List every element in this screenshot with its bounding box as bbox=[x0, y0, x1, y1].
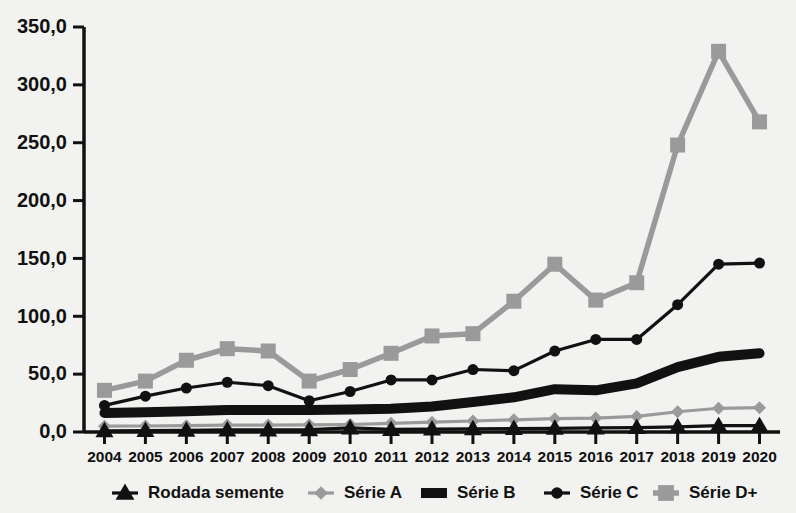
circle-marker-icon bbox=[467, 364, 478, 375]
square-marker-icon bbox=[506, 294, 521, 309]
legend-label: Série D+ bbox=[689, 483, 758, 502]
x-tick-label: 2009 bbox=[292, 448, 327, 465]
x-tick-label: 2007 bbox=[210, 448, 244, 465]
x-tick-label: 2013 bbox=[456, 448, 491, 465]
square-marker-icon bbox=[752, 114, 767, 129]
x-tick-label: 2011 bbox=[374, 448, 408, 465]
square-marker-icon bbox=[658, 485, 674, 501]
circle-marker-icon bbox=[508, 365, 519, 376]
legend-label: Rodada semente bbox=[148, 483, 284, 502]
legend-item-1[interactable]: Rodada semente bbox=[112, 483, 284, 502]
diamond-marker-icon bbox=[712, 402, 725, 415]
circle-marker-icon bbox=[672, 299, 683, 310]
circle-marker-icon bbox=[590, 334, 601, 345]
series-5 bbox=[97, 44, 767, 398]
y-tick-label: 350,0 bbox=[17, 15, 67, 37]
square-marker-icon bbox=[711, 44, 726, 59]
x-tick-label: 2006 bbox=[169, 448, 204, 465]
circle-marker-icon bbox=[140, 391, 151, 402]
x-tick-label: 2008 bbox=[251, 448, 286, 465]
x-axis-ticks: 2004200520062007200820092010201120122013… bbox=[87, 432, 777, 465]
square-marker-icon bbox=[261, 344, 276, 359]
square-marker-icon bbox=[465, 326, 480, 341]
chart-legend: Rodada sementeSérie ASérie BSérie CSérie… bbox=[112, 483, 758, 502]
data-series-layer bbox=[95, 44, 768, 438]
y-axis-ticks: 0,050,0100,0150,0200,0250,0300,0350,0 bbox=[17, 15, 84, 442]
x-tick-label: 2005 bbox=[128, 448, 163, 465]
circle-marker-icon bbox=[181, 383, 192, 394]
chart-canvas: 0,050,0100,0150,0200,0250,0300,0350,0 20… bbox=[0, 0, 796, 513]
square-marker-icon bbox=[179, 353, 194, 368]
circle-marker-icon bbox=[304, 395, 315, 406]
y-tick-label: 0,0 bbox=[39, 420, 67, 442]
legend-item-2[interactable]: Série A bbox=[308, 483, 402, 502]
x-tick-label: 2015 bbox=[538, 448, 573, 465]
circle-marker-icon bbox=[754, 258, 765, 269]
circle-marker-icon bbox=[551, 487, 563, 499]
circle-marker-icon bbox=[263, 380, 274, 391]
legend-label: Série C bbox=[580, 483, 639, 502]
legend-item-3[interactable]: Série B bbox=[421, 483, 516, 502]
square-marker-icon bbox=[384, 346, 399, 361]
x-tick-label: 2018 bbox=[660, 448, 695, 465]
legend-item-4[interactable]: Série C bbox=[544, 483, 639, 502]
y-tick-label: 300,0 bbox=[17, 73, 67, 95]
line-chart: 0,050,0100,0150,0200,0250,0300,0350,0 20… bbox=[0, 0, 796, 513]
y-tick-label: 200,0 bbox=[17, 189, 67, 211]
circle-marker-icon bbox=[631, 334, 642, 345]
square-marker-icon bbox=[138, 374, 153, 389]
legend-label: Série B bbox=[457, 483, 516, 502]
circle-marker-icon bbox=[427, 374, 438, 385]
square-marker-icon bbox=[547, 257, 562, 272]
diamond-marker-icon bbox=[671, 405, 684, 418]
circle-marker-icon bbox=[386, 374, 397, 385]
x-tick-label: 2004 bbox=[87, 448, 122, 465]
x-tick-label: 2019 bbox=[701, 448, 736, 465]
square-marker-icon bbox=[425, 328, 440, 343]
diamond-marker-icon bbox=[314, 486, 328, 500]
square-marker-icon bbox=[588, 293, 603, 308]
square-marker-icon bbox=[97, 383, 112, 398]
circle-marker-icon bbox=[222, 377, 233, 388]
circle-marker-icon bbox=[713, 259, 724, 270]
circle-marker-icon bbox=[549, 346, 560, 357]
y-tick-label: 50,0 bbox=[28, 362, 67, 384]
square-marker-icon bbox=[220, 341, 235, 356]
legend-item-5[interactable]: Série D+ bbox=[653, 483, 758, 502]
legend-label: Série A bbox=[344, 483, 402, 502]
y-tick-label: 100,0 bbox=[17, 305, 67, 327]
diamond-marker-icon bbox=[753, 401, 766, 414]
x-tick-label: 2012 bbox=[415, 448, 449, 465]
square-marker-icon bbox=[629, 275, 644, 290]
circle-marker-icon bbox=[345, 386, 356, 397]
x-tick-label: 2010 bbox=[333, 448, 367, 465]
y-tick-label: 250,0 bbox=[17, 131, 67, 153]
x-tick-label: 2017 bbox=[619, 448, 653, 465]
square-marker-icon bbox=[343, 362, 358, 377]
y-tick-label: 150,0 bbox=[17, 247, 67, 269]
x-tick-label: 2016 bbox=[579, 448, 614, 465]
square-marker-icon bbox=[302, 374, 317, 389]
x-tick-label: 2014 bbox=[497, 448, 532, 465]
x-tick-label: 2020 bbox=[742, 448, 776, 465]
square-marker-icon bbox=[670, 138, 685, 153]
